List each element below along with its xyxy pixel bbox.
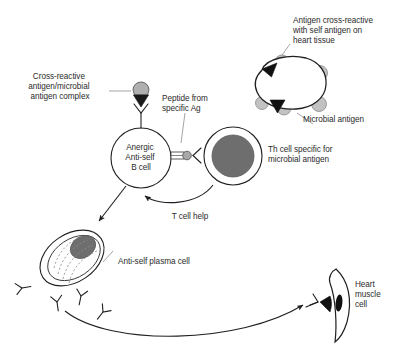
anti-self-plasma-cell bbox=[30, 219, 115, 298]
arrow-t-cell-help bbox=[145, 185, 213, 203]
microbial-antigen-label: Microbial antigen bbox=[303, 115, 365, 124]
antibody-y-icon bbox=[15, 281, 111, 322]
b-cell-label: Anergic Anti-self B cell bbox=[125, 143, 156, 172]
th-cell bbox=[204, 127, 262, 185]
arrow-antibody-to-heart-cell bbox=[65, 305, 303, 336]
heart-muscle-cell-label: Heart muscle cell bbox=[355, 280, 383, 309]
plasma-cell-label: Anti-self plasma cell bbox=[118, 257, 190, 266]
peptide-from-ag-label: Peptide from specific Ag bbox=[162, 94, 210, 113]
molecular-mimicry-diagram: Anergic Anti-self B cell Th cell specifi… bbox=[0, 0, 411, 357]
microbe-blob-icon bbox=[255, 55, 327, 115]
arrow-b-cell-to-plasma-cell bbox=[99, 186, 126, 221]
cross-reactive-complex-label: Cross-reactive antigen/microbial antigen… bbox=[28, 72, 91, 101]
leader-plasma-cell bbox=[103, 251, 113, 262]
antigen-complex-icon bbox=[133, 82, 149, 107]
mhc-peptide-icon bbox=[171, 151, 191, 160]
th-cell-label: Th cell specific for microbial antigen bbox=[268, 145, 335, 164]
tcr-icon bbox=[193, 148, 201, 163]
antigen-cross-reactive-heart-label: Antigen cross-reactive with self antigen… bbox=[292, 16, 375, 45]
leader-peptide-from-ag bbox=[181, 113, 185, 143]
bound-antibody-icon bbox=[306, 294, 318, 307]
heart-muscle-cell-icon bbox=[320, 269, 350, 342]
th-cell-nucleus bbox=[212, 135, 254, 177]
t-cell-help-label: T cell help bbox=[172, 212, 209, 221]
